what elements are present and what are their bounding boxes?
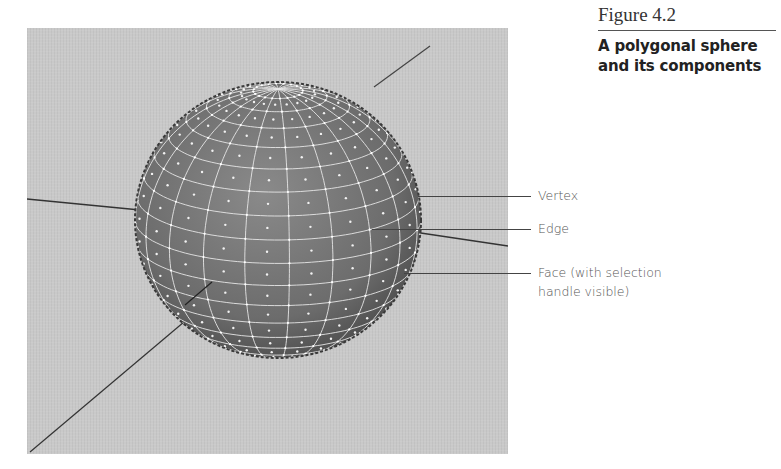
z-axis-line-top [374, 46, 430, 87]
face-leader-line [404, 273, 531, 274]
vertex-callout: Vertex [538, 186, 578, 205]
face-callout-line2: handle visible) [538, 282, 662, 301]
face-callout: Face (with selection handle visible) [538, 263, 662, 301]
figure-title-line2: and its components [598, 56, 781, 76]
figure-title-line1: A polygonal sphere [598, 36, 781, 56]
edge-callout: Edge [538, 219, 569, 238]
x-axis-line-right [414, 232, 508, 246]
sphere-scene [27, 28, 508, 454]
edge-leader-line [372, 229, 531, 230]
3d-viewport[interactable] [27, 28, 508, 454]
x-axis-line-left [27, 199, 140, 210]
figure-title: A polygonal sphere and its components [598, 36, 781, 76]
polygonal-sphere [135, 82, 421, 358]
figure-number: Figure 4.2 [598, 4, 776, 31]
face-callout-line1: Face (with selection [538, 263, 662, 282]
vertex-leader-line [418, 196, 531, 197]
